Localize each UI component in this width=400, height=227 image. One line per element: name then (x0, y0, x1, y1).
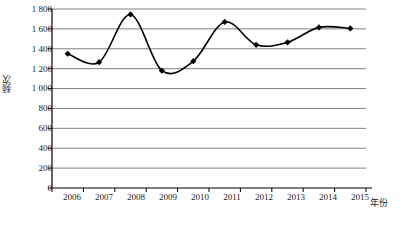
data-point-marker (253, 42, 259, 48)
y-tick-label: 0 (16, 184, 52, 193)
y-axis-tick-labels: 1 800 1 600 1 400 1 200 1 000 800 600 40… (14, 0, 52, 227)
y-tick-label: 1 800 (16, 5, 52, 14)
data-point-marker (316, 24, 322, 30)
data-point-marker (127, 11, 133, 17)
series-line (68, 14, 351, 73)
grid-lines (52, 9, 366, 168)
series-markers (65, 11, 354, 73)
data-point-marker (65, 51, 71, 57)
y-tick-label: 800 (16, 104, 52, 113)
y-tick-label: 1 600 (16, 25, 52, 34)
y-axis-title: 频次 (1, 62, 15, 106)
data-point-marker (222, 19, 228, 25)
y-tick-label: 200 (16, 164, 52, 173)
data-point-marker (284, 39, 290, 45)
y-tick-label: 400 (16, 144, 52, 153)
x-axis-title: 年份 (370, 196, 388, 209)
y-tick-label: 1 400 (16, 45, 52, 54)
y-tick-label: 600 (16, 124, 52, 133)
line-chart: 频次 1 800 1 600 1 400 1 200 1 000 800 600… (0, 0, 400, 227)
y-tick-label: 1 000 (16, 84, 52, 93)
y-tick-label: 1 200 (16, 65, 52, 74)
data-point-marker (347, 25, 353, 31)
